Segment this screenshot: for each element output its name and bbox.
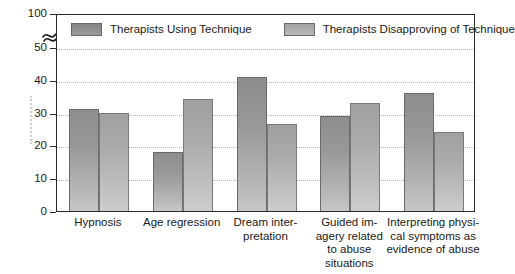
x-axis-label: Hypnosis	[50, 216, 146, 230]
bar-using-technique	[237, 77, 267, 211]
x-axis-label-line: Age regression	[134, 216, 230, 230]
x-axis-label: Guided im-agery relatedto abusesituation…	[301, 216, 397, 270]
axis-label-artifact	[30, 96, 34, 144]
gridline	[57, 49, 474, 50]
legend-label-disapprove: Therapists Disapproving of Technique	[323, 24, 515, 36]
legend-swatch-using-icon	[71, 23, 102, 36]
x-axis-label: Interpreting physi-cal symptoms aseviden…	[385, 216, 481, 257]
legend-swatch-disapprove-icon	[284, 23, 315, 36]
x-axis-label-line: Hypnosis	[50, 216, 146, 230]
legend-item-using: Therapists Using Technique	[71, 23, 252, 36]
x-axis-label: Dream inter-pretation	[218, 216, 314, 243]
x-axis-label-line: Guided im-	[301, 216, 397, 230]
bar-disapproving-technique	[434, 132, 464, 211]
bar-disapproving-technique	[99, 113, 129, 211]
x-axis-label-line: evidence of abuse	[385, 243, 481, 257]
y-tick-label: 40	[34, 75, 47, 87]
bar-using-technique	[404, 93, 434, 211]
y-tick-label: 50	[34, 42, 47, 54]
y-tick-label: 20	[34, 141, 47, 153]
bar-using-technique	[69, 109, 99, 211]
x-axis-label-line: situations	[301, 257, 397, 271]
y-tick-label: 0	[41, 206, 47, 218]
x-axis-label-line: cal symptoms as	[385, 230, 481, 244]
bar-disapproving-technique	[267, 124, 297, 211]
bar-disapproving-technique	[350, 103, 380, 211]
y-tick-label: 10	[34, 173, 47, 185]
y-tick-mark	[50, 212, 56, 213]
x-axis-label-line: Interpreting physi-	[385, 216, 481, 230]
x-axis-label-line: agery related	[301, 230, 397, 244]
bar-using-technique	[320, 116, 350, 211]
legend-label-using: Therapists Using Technique	[110, 24, 252, 36]
x-axis-labels: HypnosisAge regressionDream inter-pretat…	[56, 216, 475, 272]
plot-area: Therapists Using Technique Therapists Di…	[56, 14, 475, 212]
legend: Therapists Using Technique Therapists Di…	[71, 23, 515, 36]
x-axis-label-line: to abuse	[301, 243, 397, 257]
bar-disapproving-technique	[183, 99, 213, 211]
y-tick-label: 30	[34, 108, 47, 120]
bar-using-technique	[153, 152, 183, 211]
legend-item-disapprove: Therapists Disapproving of Technique	[284, 23, 515, 36]
y-tick-label: 100	[28, 8, 47, 20]
x-axis-label-line: Dream inter-	[218, 216, 314, 230]
x-axis-label: Age regression	[134, 216, 230, 230]
x-axis-label-line: pretation	[218, 230, 314, 244]
